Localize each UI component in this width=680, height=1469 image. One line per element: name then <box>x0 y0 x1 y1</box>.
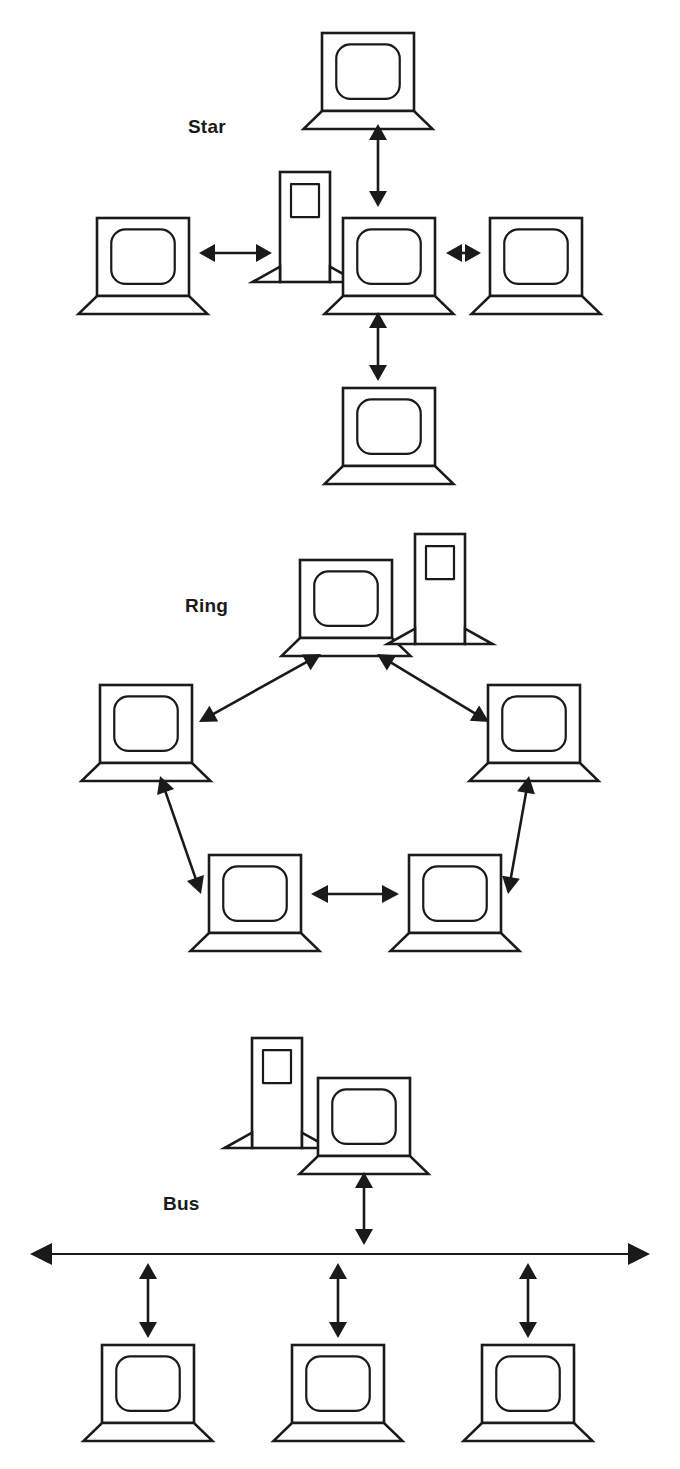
star-laptop-left[interactable] <box>79 218 208 314</box>
bus-link-bottom-3[interactable] <box>519 1263 537 1338</box>
star-laptop-top[interactable] <box>304 33 433 129</box>
star-laptop-center[interactable] <box>325 218 454 314</box>
ring-laptop-bottom-left-screen <box>223 866 286 921</box>
star-laptop-right-base <box>472 296 601 314</box>
bus-link-bottom-3-arrowhead-start <box>519 1263 537 1279</box>
ring-link-bottomleft-left[interactable] <box>157 776 204 894</box>
bus-link-bottom-1-arrowhead-end <box>139 1322 157 1338</box>
ring-laptop-bottom-right-base <box>391 933 520 951</box>
section-label-bus: Bus <box>163 1193 200 1214</box>
network-topology-diagram: Star Ring Bus <box>0 0 680 1469</box>
bus-laptop-bottom-3[interactable] <box>464 1345 593 1441</box>
star-server-center-panel <box>291 184 319 217</box>
ring-link-right-bottomright[interactable] <box>502 776 535 894</box>
bus-link-bottom-2-arrowhead-start <box>329 1263 347 1279</box>
ring-link-right-bottomright-arrowhead-end <box>502 876 520 894</box>
ring-link-left-top-shaft <box>211 661 309 716</box>
star-link-left-arrowhead-end <box>199 244 215 262</box>
bus-backbone-line-arrowhead-start <box>30 1243 52 1265</box>
ring-link-bottom-horizontal-arrowhead-start <box>311 885 328 903</box>
ring-laptop-bottom-right-screen <box>423 866 486 921</box>
ring-laptop-bottom-left-base <box>191 933 320 951</box>
bus-server-top[interactable] <box>225 1038 330 1148</box>
star-laptop-center-screen <box>357 229 420 284</box>
bus-link-top[interactable] <box>355 1172 373 1245</box>
bus-laptop-top-screen <box>332 1089 395 1144</box>
ring-link-top-right-arrowhead-start <box>377 654 396 671</box>
ring-laptop-top-screen <box>314 571 377 626</box>
star-link-group <box>199 124 481 381</box>
star-link-bottom[interactable] <box>369 312 387 381</box>
bus-link-top-arrowhead-end <box>355 1229 373 1245</box>
bus-laptop-bottom-2[interactable] <box>274 1345 403 1441</box>
bus-laptop-top-base <box>300 1156 429 1174</box>
star-link-top[interactable] <box>369 124 387 207</box>
bus-laptop-bottom-2-base <box>274 1423 403 1441</box>
bus-backbone-line[interactable] <box>30 1243 650 1265</box>
bus-link-bottom-3-arrowhead-end <box>519 1322 537 1338</box>
ring-link-top-right-arrowhead-end <box>470 705 489 722</box>
bus-laptop-bottom-3-screen <box>496 1356 559 1411</box>
ring-link-bottom-horizontal-arrowhead-end <box>382 885 399 903</box>
section-bus: Bus <box>30 1038 650 1441</box>
bus-link-bottom-2-arrowhead-end <box>329 1322 347 1338</box>
ring-laptop-left-base <box>82 763 211 781</box>
bus-link-bottom-1-arrowhead-start <box>139 1263 157 1279</box>
bus-laptop-top[interactable] <box>300 1078 429 1174</box>
star-link-right-arrowhead-start <box>446 244 462 262</box>
star-link-right-arrowhead-end <box>465 244 481 262</box>
ring-laptop-bottom-left[interactable] <box>191 855 320 951</box>
star-link-left[interactable] <box>199 244 272 262</box>
star-laptop-left-base <box>79 296 208 314</box>
star-laptop-top-screen <box>336 44 399 99</box>
star-laptop-center-base <box>325 296 454 314</box>
star-laptop-bottom[interactable] <box>325 388 454 484</box>
section-star: Star <box>79 33 601 484</box>
star-link-right[interactable] <box>446 244 481 262</box>
ring-device-group <box>82 534 599 951</box>
star-laptop-right-screen <box>504 229 567 284</box>
ring-server-top-panel <box>426 546 454 579</box>
ring-server-top[interactable] <box>388 534 493 644</box>
ring-laptop-right-base <box>470 763 599 781</box>
star-link-top-arrowhead-start <box>369 191 387 207</box>
bus-link-bottom-2[interactable] <box>329 1263 347 1338</box>
bus-laptop-bottom-1[interactable] <box>84 1345 213 1441</box>
ring-laptop-left-screen <box>114 696 177 751</box>
bus-link-bottom-1[interactable] <box>139 1263 157 1338</box>
bus-laptop-bottom-1-screen <box>116 1356 179 1411</box>
ring-laptop-right-screen <box>502 696 565 751</box>
ring-link-bottom-horizontal[interactable] <box>311 885 399 903</box>
bus-laptop-bottom-1-base <box>84 1423 213 1441</box>
bus-server-top-panel <box>263 1050 291 1083</box>
star-link-bottom-arrowhead-end <box>369 365 387 381</box>
bus-backbone-group <box>30 1243 650 1265</box>
ring-link-top-right-shaft <box>389 661 478 715</box>
star-laptop-bottom-base <box>325 466 454 484</box>
ring-link-left-top[interactable] <box>199 654 321 722</box>
section-label-star: Star <box>188 116 226 137</box>
bus-device-group <box>84 1038 593 1441</box>
ring-laptop-bottom-right[interactable] <box>391 855 520 951</box>
section-label-ring: Ring <box>185 595 228 616</box>
bus-backbone-line-arrowhead-end <box>628 1243 650 1265</box>
bus-laptop-bottom-2-screen <box>306 1356 369 1411</box>
star-server-center-foot-left <box>253 267 281 282</box>
topology-canvas: Star Ring Bus <box>0 0 680 1469</box>
star-laptop-top-base <box>304 111 433 129</box>
ring-link-right-bottomright-shaft <box>510 789 526 880</box>
star-laptop-bottom-screen <box>357 399 420 454</box>
star-device-group <box>79 33 601 484</box>
ring-link-bottomleft-left-shaft <box>164 789 196 881</box>
ring-link-top-right[interactable] <box>377 654 489 722</box>
bus-laptop-bottom-3-base <box>464 1423 593 1441</box>
section-ring: Ring <box>82 534 599 951</box>
star-laptop-right[interactable] <box>472 218 601 314</box>
ring-server-top-foot-right <box>465 629 493 644</box>
ring-laptop-left[interactable] <box>82 685 211 781</box>
star-link-left-arrowhead-start <box>256 244 272 262</box>
ring-laptop-right[interactable] <box>470 685 599 781</box>
star-laptop-left-screen <box>111 229 174 284</box>
bus-server-top-foot-left <box>225 1133 253 1148</box>
